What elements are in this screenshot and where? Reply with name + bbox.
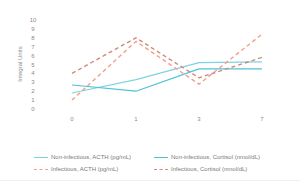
chart: 012345678910Integral Units0137 Non-infec…: [0, 0, 300, 186]
solid-line-swatch-icon: [34, 157, 48, 158]
divider: [0, 180, 300, 181]
legend-item-inf-cortisol: Infectious, Cortisol (nmol/dL): [154, 166, 274, 172]
legend-label: Infectious, Cortisol (nmol/dL): [171, 166, 247, 172]
legend-item-noninf-acth: Non-infectious, ACTH (pg/mL): [34, 154, 154, 160]
solid-line-swatch-icon: [154, 157, 168, 158]
legend: Non-infectious, ACTH (pg/mL) Non-infecti…: [34, 151, 274, 175]
dashed-line-swatch-icon: [34, 169, 48, 170]
y-tick-label: 1: [31, 97, 35, 103]
legend-label: Infectious, ACTH (pg/mL): [51, 166, 118, 172]
y-tick-label: 8: [31, 35, 35, 41]
x-tick-label: 3: [197, 116, 201, 122]
y-tick-label: 0: [31, 106, 35, 112]
legend-item-inf-acth: Infectious, ACTH (pg/mL): [34, 166, 154, 172]
legend-item-noninf-cortisol: Non-infectious, Cortisol (nmol/dL): [154, 154, 274, 160]
series-line: [72, 69, 262, 91]
y-tick-label: 6: [31, 53, 35, 59]
y-tick-label: 5: [31, 62, 35, 68]
x-tick-label: 1: [134, 116, 138, 122]
legend-label: Non-infectious, Cortisol (nmol/dL): [171, 154, 260, 160]
y-tick-label: 4: [31, 70, 35, 76]
x-tick-label: 0: [70, 116, 74, 122]
dashed-line-swatch-icon: [154, 169, 168, 170]
y-tick-label: 10: [30, 17, 37, 23]
y-tick-label: 7: [31, 44, 35, 50]
y-tick-label: 3: [31, 79, 35, 85]
x-tick-label: 7: [260, 116, 264, 122]
y-tick-label: 9: [31, 26, 35, 32]
legend-label: Non-infectious, ACTH (pg/mL): [51, 154, 131, 160]
y-axis-label: Integral Units: [17, 46, 23, 81]
y-tick-label: 2: [31, 88, 35, 94]
